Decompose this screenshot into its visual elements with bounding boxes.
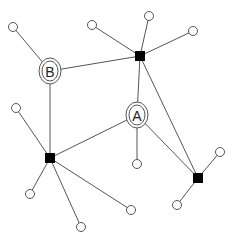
circle-node-icon <box>189 27 198 36</box>
leaf-node-l1 <box>9 23 18 32</box>
nodes-layer: AB <box>9 12 225 232</box>
leaf-node-l3 <box>145 12 154 21</box>
circle-node-icon <box>173 201 182 210</box>
circle-node-icon <box>26 190 35 199</box>
leaf-node-l5 <box>12 104 21 113</box>
leaf-node-l4 <box>189 27 198 36</box>
square-node-icon <box>45 153 55 163</box>
leaf-node-l8 <box>77 223 86 232</box>
hub-node-h2 <box>45 153 55 163</box>
edge-h2-l5 <box>16 108 50 158</box>
square-node-icon <box>193 173 203 183</box>
labeled-node-b: B <box>39 58 61 84</box>
network-diagram: AB <box>0 0 239 234</box>
edge-h1-h3 <box>140 56 198 178</box>
circle-node-icon <box>88 21 97 30</box>
edge-a-h3 <box>137 115 198 178</box>
circle-node-icon <box>216 148 225 157</box>
edge-b-h1 <box>50 56 140 71</box>
edge-h2-l7 <box>30 158 50 194</box>
circle-node-icon <box>127 206 136 215</box>
edge-a-h2 <box>50 115 137 158</box>
leaf-node-l11 <box>173 201 182 210</box>
leaf-node-l2 <box>88 21 97 30</box>
leaf-node-l9 <box>127 206 136 215</box>
circle-node-icon <box>12 104 21 113</box>
node-label: B <box>45 64 54 80</box>
leaf-node-l6 <box>133 160 142 169</box>
leaf-node-l7 <box>26 190 35 199</box>
circle-node-icon <box>9 23 18 32</box>
circle-node-icon <box>133 160 142 169</box>
hub-node-h1 <box>135 51 145 61</box>
edge-h1-l4 <box>140 31 193 56</box>
edge-h1-l3 <box>140 16 149 56</box>
node-label: A <box>132 108 142 124</box>
circle-node-icon <box>77 223 86 232</box>
edges-layer <box>13 16 220 227</box>
hub-node-h3 <box>193 173 203 183</box>
edge-h1-l2 <box>92 25 140 56</box>
labeled-node-a: A <box>126 102 148 128</box>
leaf-node-l10 <box>216 148 225 157</box>
square-node-icon <box>135 51 145 61</box>
circle-node-icon <box>145 12 154 21</box>
